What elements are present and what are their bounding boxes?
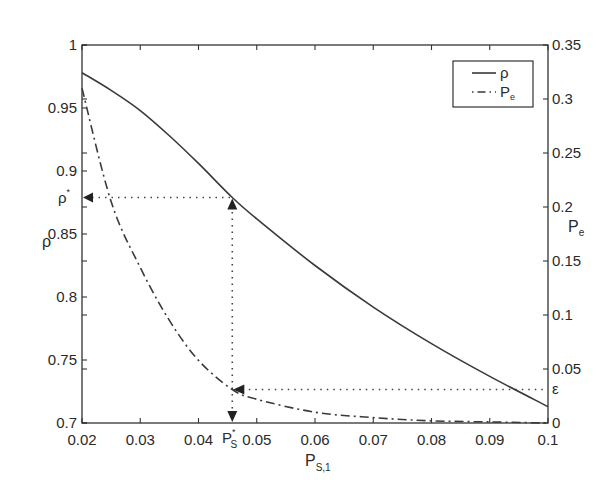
y-left-tick-label: 0.75 (48, 351, 77, 368)
y-right-tick-label: 0.15 (552, 252, 581, 269)
x-tick-label: 0.07 (359, 431, 388, 448)
legend: ρ Pe (453, 61, 533, 107)
y-right-tick-label: 0 (552, 414, 560, 431)
x-tick-label: 0.03 (126, 431, 155, 448)
y-right-tick-label: 0.3 (552, 90, 573, 107)
svg-text:PS,1: PS,1 (305, 452, 331, 473)
arrow-down-icon (227, 411, 237, 422)
data-series (82, 73, 548, 423)
ps-star-label: P*S (222, 427, 238, 450)
rho-star-label: ρ* (58, 187, 71, 206)
x-tick-label: 0.02 (67, 431, 96, 448)
y-right-tick-label: 0.2 (552, 198, 573, 215)
y-right-tick-label: 0.35 (552, 36, 581, 53)
y-left-tick-label: 0.9 (56, 162, 77, 179)
pe-curve (82, 88, 548, 423)
x-tick-label: 0.04 (184, 431, 213, 448)
x-tick-label: 0.06 (300, 431, 329, 448)
epsilon-label: ε (552, 380, 559, 397)
svg-text:Pe: Pe (568, 218, 585, 238)
y-right-tick-label: 0.05 (552, 360, 581, 377)
annotation-guides (83, 192, 548, 422)
chart: 0.020.030.040.050.060.070.080.090.10.70.… (0, 0, 611, 497)
y-left-tick-label: 1 (69, 36, 77, 53)
y-left-tick-label: 0.85 (48, 225, 77, 242)
y-axis-left-label: ρ (42, 233, 51, 250)
y-left-tick-label: 0.8 (56, 288, 77, 305)
y-left-tick-label: 0.7 (56, 414, 77, 431)
y-axis-right-label: Pe (568, 218, 585, 238)
arrow-left-icon (233, 385, 244, 395)
y-left-tick-label: 0.95 (48, 99, 77, 116)
x-tick-label: 0.05 (242, 431, 271, 448)
x-tick-label: 0.09 (475, 431, 504, 448)
legend-rho-label: ρ (500, 64, 509, 81)
arrow-left-icon (83, 192, 93, 202)
y-right-tick-label: 0.1 (552, 306, 573, 323)
x-tick-label: 0.08 (417, 431, 446, 448)
y-right-tick-label: 0.25 (552, 144, 581, 161)
x-tick-label: 0.1 (538, 431, 559, 448)
rho-curve (82, 73, 548, 407)
x-axis-label: PS,1 (305, 452, 331, 473)
